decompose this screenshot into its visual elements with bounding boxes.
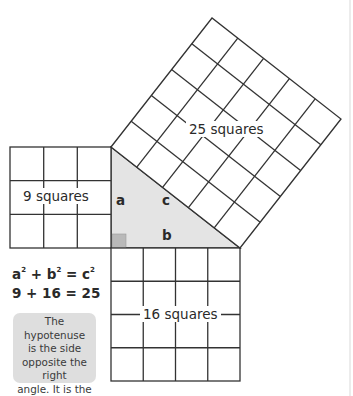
side-c-label: c — [162, 192, 170, 208]
formula-b-exp: 2 — [56, 266, 61, 274]
formula-b: b — [47, 266, 57, 282]
side-b-label: b — [162, 227, 172, 243]
formula-c-exp: 2 — [90, 266, 95, 274]
formula-a: a — [12, 266, 21, 282]
formula-plus: + — [26, 266, 47, 282]
right-angle-marker — [112, 234, 126, 248]
hypotenuse-callout: The hypotenuse is the side opposite the … — [13, 313, 96, 383]
callout-line: is the side — [13, 342, 96, 356]
formula-c: c — [82, 266, 90, 282]
callout-line: The hypotenuse — [13, 315, 96, 342]
formula-equals: = — [61, 266, 82, 282]
formula-numeric: 9 + 16 = 25 — [12, 284, 100, 302]
callout-line: opposite the right — [13, 356, 96, 383]
b-square-label: 16 squares — [140, 306, 221, 322]
formula-a-exp: 2 — [21, 266, 26, 274]
callout-line: angle. It is the — [13, 383, 96, 396]
c-square-label: 25 squares — [186, 121, 267, 137]
side-a-label: a — [116, 192, 125, 208]
formula-general: a2 + b2 = c2 — [12, 262, 95, 283]
a-square-label: 9 squares — [20, 188, 92, 204]
